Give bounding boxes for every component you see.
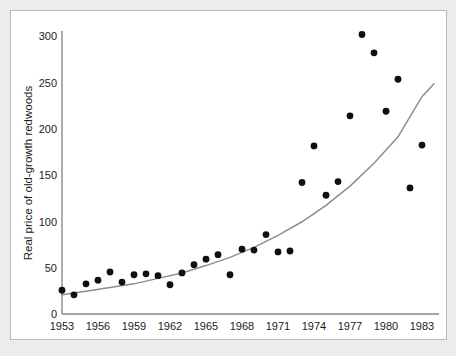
scatter-plot: Real price of old-growth redwoods 0 50 1…	[11, 11, 446, 339]
data-point	[371, 49, 378, 56]
data-point	[215, 251, 222, 258]
data-point	[419, 142, 426, 149]
data-point	[95, 277, 102, 284]
x-tick-label: 1983	[410, 320, 434, 332]
data-point	[359, 31, 366, 38]
data-point	[311, 143, 318, 150]
trend-curve	[62, 84, 434, 295]
x-tick-label: 1974	[302, 320, 326, 332]
y-tick-label: 50	[45, 262, 57, 274]
x-tick-label: 1962	[158, 320, 182, 332]
x-tick-label: 1965	[194, 320, 218, 332]
data-point	[263, 231, 270, 238]
x-tick-label: 1971	[266, 320, 290, 332]
y-tick-label: 200	[39, 123, 57, 135]
data-point	[59, 287, 66, 294]
figure-panel: Real price of old-growth redwoods 0 50 1…	[10, 10, 447, 340]
data-point	[299, 179, 306, 186]
data-point	[239, 246, 246, 253]
data-point	[191, 261, 198, 268]
x-tick-label: 1956	[86, 320, 110, 332]
data-point	[407, 185, 414, 192]
data-point	[275, 248, 282, 255]
data-point	[143, 270, 150, 277]
data-point	[83, 280, 90, 287]
data-points-layer	[59, 31, 426, 298]
data-point	[335, 178, 342, 185]
data-point	[131, 271, 138, 278]
data-point	[251, 247, 258, 254]
y-tick-label: 100	[39, 216, 57, 228]
data-point	[347, 112, 354, 119]
data-point	[395, 76, 402, 83]
data-point	[119, 279, 126, 286]
data-point	[323, 192, 330, 199]
x-tick-labels: 1953 1956 1959 1962 1965 1968 1971 1974 …	[50, 320, 434, 332]
x-tick-label: 1953	[50, 320, 74, 332]
x-tick-label: 1959	[122, 320, 146, 332]
x-tick-label: 1980	[374, 320, 398, 332]
data-point	[287, 248, 294, 255]
y-tick-labels: 0 50 100 150 200 250 300	[39, 30, 57, 320]
data-point	[383, 108, 390, 115]
data-point	[227, 271, 234, 278]
y-tick-label: 150	[39, 169, 57, 181]
data-point	[71, 291, 78, 298]
data-point	[203, 256, 210, 263]
y-tick-label: 300	[39, 30, 57, 42]
y-tick-label: 0	[51, 308, 57, 320]
data-point	[107, 269, 114, 276]
y-axis-title: Real price of old-growth redwoods	[22, 86, 34, 261]
data-point	[179, 270, 186, 277]
x-tick-label: 1968	[230, 320, 254, 332]
data-point	[167, 281, 174, 288]
data-point	[155, 272, 162, 279]
y-tick-label: 250	[39, 77, 57, 89]
x-tick-label: 1977	[338, 320, 362, 332]
